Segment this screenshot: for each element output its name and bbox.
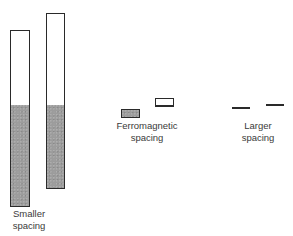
larger-spacing-left-level [232,107,250,109]
ferromagnetic-spacing-label: Ferromagnetic spacing [110,120,184,144]
shaded-region [47,105,64,188]
larger-spacing-right-level [266,104,284,106]
smaller-spacing-right-band [46,13,65,189]
smaller-spacing-left-band [10,30,30,207]
smaller-spacing-label: Smaller spacing [4,208,54,232]
band-spacing-diagram: Smaller spacing Ferromagnetic spacing La… [0,0,293,236]
ferromagnetic-empty-band [155,98,174,107]
larger-spacing-label: Larger spacing [232,120,284,144]
shaded-region [11,105,29,206]
ferromagnetic-shaded-band [121,109,140,118]
shaded-region [122,110,139,117]
